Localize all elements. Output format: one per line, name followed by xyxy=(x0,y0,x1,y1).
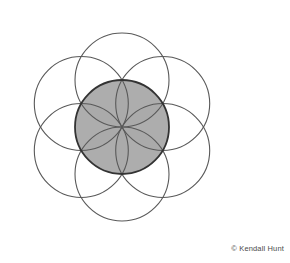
copyright-credit: © Kendall Hunt xyxy=(231,244,284,254)
figure-canvas: © Kendall Hunt xyxy=(0,0,290,263)
rosette-diagram xyxy=(0,0,290,263)
